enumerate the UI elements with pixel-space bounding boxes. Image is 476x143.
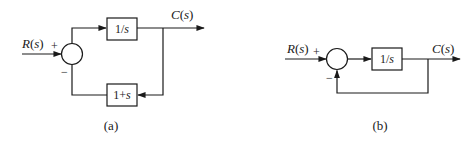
block-diagrams: R(s) + − 1/s C(s) 1+s (a) R(s) + − 1/s	[0, 0, 476, 143]
output-label-a: C(s)	[171, 7, 193, 22]
minus-sign-b: −	[326, 71, 333, 85]
input-label-a: R(s)	[21, 36, 44, 51]
summing-junction-a	[62, 44, 83, 65]
summing-junction-b	[327, 49, 348, 70]
diagram-b: R(s) + − 1/s C(s) (b)	[285, 41, 460, 133]
feedback-block-label-a: 1+s	[113, 88, 131, 102]
input-label-b: R(s)	[286, 41, 309, 56]
forward-block-label-a: 1/s	[115, 22, 129, 36]
forward-block-label-b: 1/s	[380, 52, 394, 66]
feedback-pickoff-a	[138, 28, 163, 95]
minus-sign-a: −	[61, 65, 68, 79]
plus-sign-a: +	[51, 39, 58, 53]
output-label-b: C(s)	[432, 41, 454, 56]
diagram-a: R(s) + − 1/s C(s) 1+s (a)	[21, 7, 204, 133]
forward-wire-a	[72, 28, 106, 44]
caption-a: (a)	[104, 118, 118, 133]
plus-sign-b: +	[313, 45, 320, 59]
caption-b: (b)	[372, 118, 387, 133]
feedback-return-a	[72, 65, 107, 96]
